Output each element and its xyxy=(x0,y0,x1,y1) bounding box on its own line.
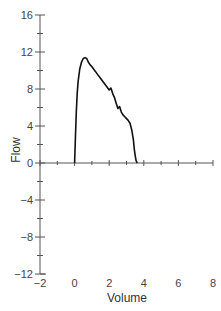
data-series-curve xyxy=(75,58,138,163)
y-tick-label: 12 xyxy=(21,46,33,58)
x-tick-label: 2 xyxy=(106,277,112,289)
axes xyxy=(40,15,213,274)
y-tick-label: −8 xyxy=(20,231,33,243)
y-axis-title: Flow xyxy=(9,137,23,163)
x-tick-label: 0 xyxy=(72,277,78,289)
x-tick-label: −2 xyxy=(34,277,47,289)
y-tick-label: 16 xyxy=(21,9,33,21)
x-axis-title: Volume xyxy=(107,291,147,305)
ticks xyxy=(35,15,213,274)
x-tick-label: 6 xyxy=(175,277,181,289)
tick-labels: −12−8−40481216−202468 xyxy=(14,9,216,289)
y-tick-label: 4 xyxy=(27,120,33,132)
y-tick-label: 8 xyxy=(27,83,33,95)
y-tick-label: −12 xyxy=(14,268,33,280)
x-tick-label: 4 xyxy=(141,277,147,289)
y-tick-label: −4 xyxy=(20,194,33,206)
x-tick-label: 8 xyxy=(210,277,216,289)
flow-volume-chart: −12−8−40481216−202468 Volume Flow xyxy=(0,0,221,311)
y-tick-label: 0 xyxy=(27,157,33,169)
